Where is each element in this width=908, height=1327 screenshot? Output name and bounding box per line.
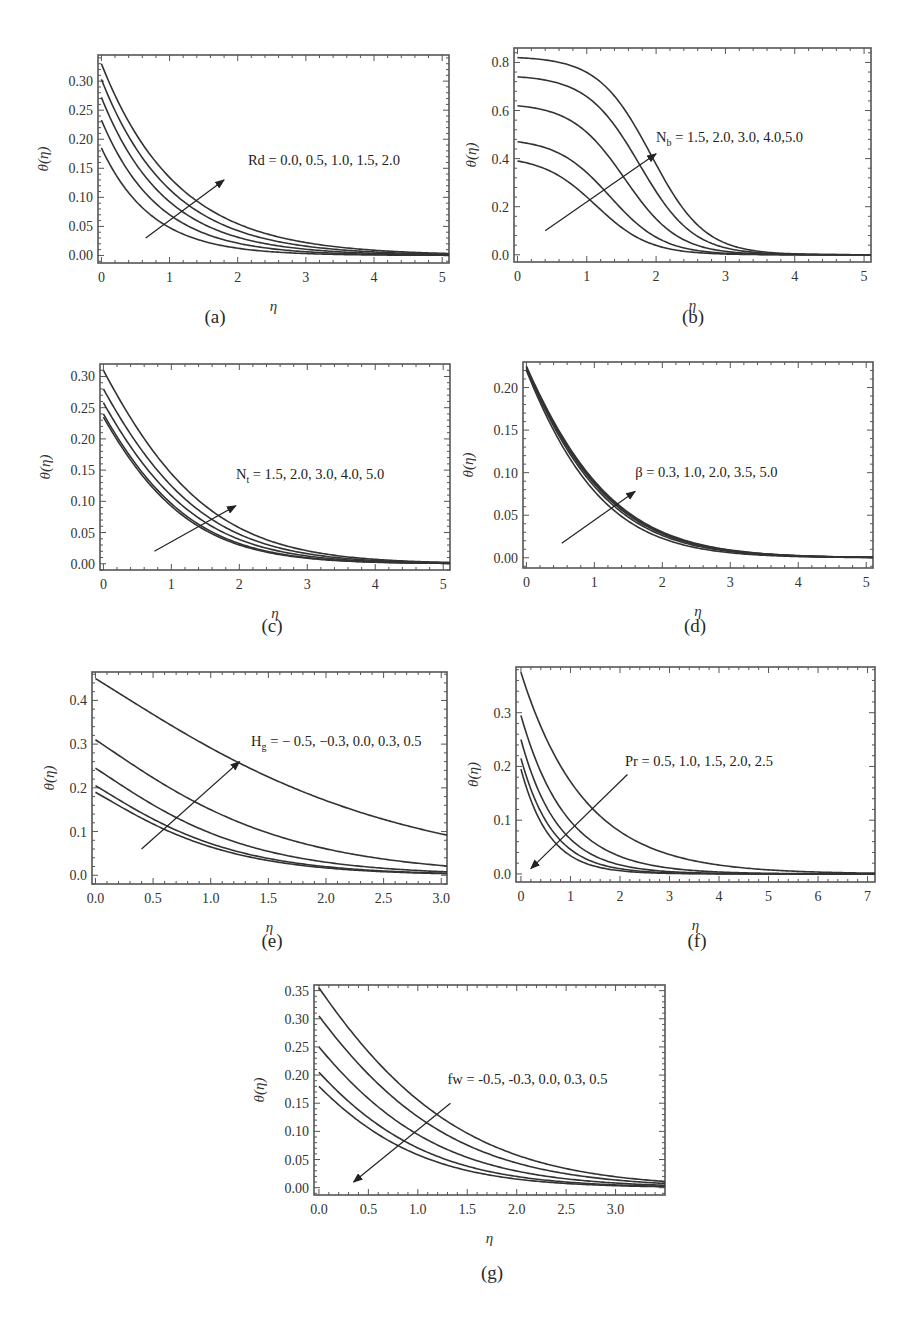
caption-a: (a) (185, 306, 245, 328)
plot-frame (314, 985, 665, 1195)
x-tick-label: 1.5 (459, 1202, 477, 1217)
y-tick-label: 0.05 (285, 1153, 310, 1168)
y-tick-label: 0.15 (285, 1096, 310, 1111)
x-tick-label: 0.0 (310, 1202, 328, 1217)
caption-e: (e) (242, 930, 302, 952)
chart-g: 0.00.51.01.52.02.53.00.000.050.100.150.2… (0, 0, 908, 1327)
caption-g: (g) (462, 1262, 522, 1284)
x-tick-label: 2.5 (557, 1202, 575, 1217)
x-axis-label: η (486, 1230, 493, 1246)
trend-arrow (354, 1103, 451, 1182)
caption-c: (c) (242, 615, 302, 637)
y-tick-label: 0.25 (285, 1040, 310, 1055)
x-tick-label: 2.0 (508, 1202, 526, 1217)
caption-f: (f) (667, 930, 727, 952)
curve (319, 1047, 665, 1185)
y-tick-label: 0.30 (285, 1012, 310, 1027)
caption-d: (d) (665, 615, 725, 637)
x-tick-label: 0.5 (360, 1202, 378, 1217)
y-axis-label: θ(η) (251, 1078, 268, 1103)
y-tick-label: 0.20 (285, 1068, 310, 1083)
y-tick-label: 0.00 (285, 1181, 310, 1196)
legend-annotation: fw = -0.5, -0.3, 0.0, 0.3, 0.5 (447, 1071, 607, 1087)
x-tick-label: 3.0 (607, 1202, 625, 1217)
x-tick-label: 1.0 (409, 1202, 427, 1217)
y-tick-label: 0.10 (285, 1124, 310, 1139)
caption-b: (b) (663, 306, 723, 328)
y-tick-label: 0.35 (285, 984, 310, 999)
